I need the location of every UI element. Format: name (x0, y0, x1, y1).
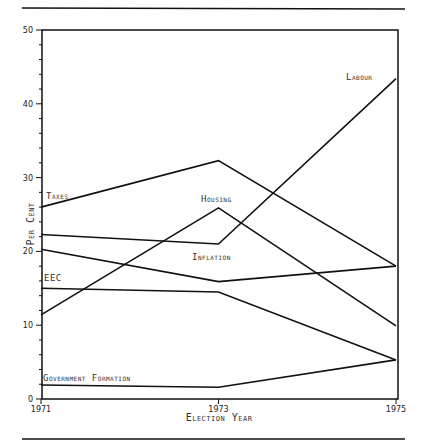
series-line-eec (41, 288, 396, 360)
line-chart: 01020304050 197119731975 TaxesLabourHous… (0, 0, 422, 445)
x-tick-label: 1971 (31, 405, 51, 414)
y-tick-label: 30 (23, 174, 33, 183)
series-label-government-formation: Government Formation (43, 373, 131, 383)
y-axis-title: Per Cent (25, 202, 36, 245)
y-tick-label: 0 (28, 395, 33, 404)
series-lines (41, 79, 396, 387)
top-rule (22, 8, 405, 9)
y-tick-label: 20 (23, 247, 33, 256)
series-labels: TaxesLabourHousingInflationEECGovernment… (43, 72, 372, 383)
series-label-taxes: Taxes (46, 191, 68, 201)
series-label-labour: Labour (346, 72, 372, 82)
series-label-inflation: Inflation (192, 252, 231, 262)
y-tick-label: 40 (23, 100, 33, 109)
series-line-taxes (41, 161, 396, 267)
series-label-eec: EEC (44, 273, 62, 283)
x-tick-label: 1975 (386, 405, 406, 414)
series-label-housing: Housing (201, 194, 232, 204)
y-tick-label: 50 (23, 26, 33, 35)
series-line-housing (41, 208, 396, 326)
plot-frame (42, 30, 398, 399)
y-tick-label: 10 (23, 321, 33, 330)
x-axis-title: Election Year (186, 412, 253, 423)
